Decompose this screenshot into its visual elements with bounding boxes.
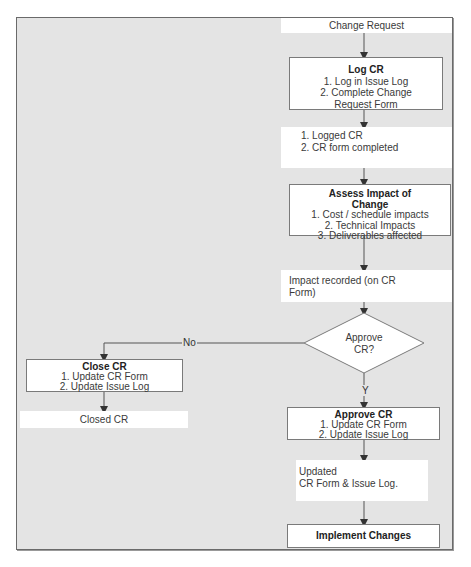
log-cr-step: 1. Log in Issue Log	[290, 76, 442, 88]
assess-step: 1. Cost / schedule impacts	[290, 210, 450, 221]
updated-line: CR Form & Issue Log.	[299, 478, 428, 490]
branch-yes-label: Y	[361, 385, 370, 396]
implement-title: Implement Changes	[316, 530, 411, 541]
approve-cr-step: 2. Update Issue Log	[288, 430, 439, 440]
decision-label: Approve CR?	[330, 332, 398, 356]
assess-title: Assess Impact of	[290, 189, 450, 200]
impact-line: Form)	[289, 287, 452, 299]
logged-line: 1. Logged CR	[301, 130, 452, 142]
assess-impact-box: Assess Impact of Change 1. Cost / schedu…	[289, 184, 451, 236]
impact-line: Impact recorded (on CR	[289, 275, 452, 287]
updated-output: Updated CR Form & Issue Log.	[296, 460, 428, 501]
close-cr-box: Close CR 1. Update CR Form 2. Update Iss…	[26, 359, 183, 392]
branch-no-label: No	[182, 337, 197, 348]
impact-recorded-output: Impact recorded (on CR Form)	[281, 270, 452, 302]
decision-line: Approve	[330, 332, 398, 344]
start-label: Change Request	[329, 20, 404, 31]
updated-line: Updated	[299, 466, 428, 478]
logged-line: 2. CR form completed	[301, 142, 452, 154]
log-cr-title: Log CR	[290, 64, 442, 76]
closed-cr-output: Closed CR	[20, 411, 188, 428]
assess-step: 3. Deliverables affected	[290, 231, 450, 242]
approve-cr-box: Approve CR 1. Update CR Form 2. Update I…	[287, 407, 440, 440]
implement-changes-box: Implement Changes	[287, 524, 440, 548]
log-cr-box: Log CR 1. Log in Issue Log 2. Complete C…	[289, 57, 443, 110]
decision-line: CR?	[330, 344, 398, 356]
log-cr-step: 2. Complete Change	[290, 87, 442, 99]
log-cr-step: Request Form	[290, 99, 442, 111]
close-cr-step: 2. Update Issue Log	[27, 382, 182, 392]
closed-cr-label: Closed CR	[80, 414, 128, 425]
start-change-request: Change Request	[281, 18, 452, 33]
logged-output: 1. Logged CR 2. CR form completed	[281, 127, 452, 168]
